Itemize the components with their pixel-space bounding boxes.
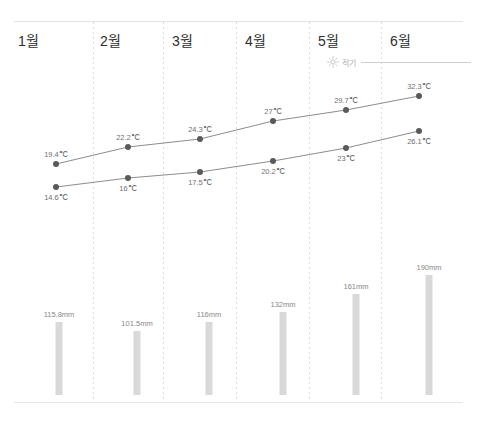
temp-low-label-5: 23℃ xyxy=(337,154,354,163)
rainfall-label-5: 161mm xyxy=(343,282,368,291)
temp-high-label-4: 27℃ xyxy=(264,107,281,116)
temp-low-line xyxy=(56,131,419,187)
temp-low-label-4: 20.2℃ xyxy=(261,167,285,176)
rainfall-bar-3[interactable] xyxy=(206,322,213,395)
rainfall-label-6: 190mm xyxy=(416,263,441,272)
temp-high-label-6: 32.3℃ xyxy=(407,82,431,91)
rainfall-bar-4[interactable] xyxy=(280,312,287,395)
rainfall-label-2: 101.5mm xyxy=(121,319,152,328)
temp-high-label-3: 24.3℃ xyxy=(188,125,212,134)
rainfall-bar-5[interactable] xyxy=(353,294,360,395)
temp-high-label-5: 29.7℃ xyxy=(334,96,358,105)
temp-low-label-3: 17.5℃ xyxy=(188,178,212,187)
rainfall-bar-1[interactable] xyxy=(56,322,63,395)
rainfall-bar-6[interactable] xyxy=(426,275,433,395)
temp-high-label-1: 19.4℃ xyxy=(44,150,68,159)
rainfall-label-4: 132mm xyxy=(270,300,295,309)
temp-high-label-2: 22.2℃ xyxy=(116,133,140,142)
footer-divider xyxy=(14,402,463,403)
temp-high-line xyxy=(56,96,419,164)
temperature-line-chart xyxy=(0,0,477,424)
rainfall-label-3: 116mm xyxy=(197,310,221,319)
temp-low-label-1: 14.6℃ xyxy=(44,193,68,202)
temp-low-label-2: 16℃ xyxy=(119,184,136,193)
weather-chart-panel: 1월 2월 3월 4월 5월 6월 적기 xyxy=(0,0,477,424)
temp-low-label-6: 26.1℃ xyxy=(407,137,431,146)
rainfall-label-1: 115.8mm xyxy=(44,310,75,319)
rainfall-bar-2[interactable] xyxy=(134,331,141,395)
